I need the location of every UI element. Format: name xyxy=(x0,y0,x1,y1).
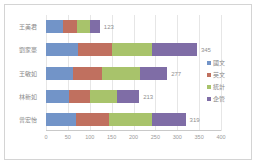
category-label: 林新如 xyxy=(11,93,44,101)
bar-segment-統計[interactable] xyxy=(77,20,90,33)
plot-area: 123345277213319 xyxy=(46,15,221,131)
legend-label: 國文 xyxy=(213,59,225,67)
bar-segment-企管[interactable] xyxy=(140,67,168,80)
legend-swatch-icon xyxy=(207,61,211,65)
bar-segment-英文[interactable] xyxy=(76,113,109,126)
legend-swatch-icon xyxy=(207,85,211,89)
bar-segment-國文[interactable] xyxy=(46,43,78,56)
bar-segment-企管[interactable] xyxy=(152,43,197,56)
x-axis-tick-label: 300 xyxy=(173,133,182,141)
bar-segment-英文[interactable] xyxy=(63,20,77,33)
table-row[interactable] xyxy=(46,20,100,33)
x-axis-tick-label: 100 xyxy=(85,133,94,141)
category-label: 王美君 xyxy=(11,23,44,31)
legend-swatch-icon xyxy=(207,97,211,101)
x-axis-line xyxy=(46,130,221,131)
bar-segment-英文[interactable] xyxy=(69,90,90,103)
legend-label: 統計 xyxy=(213,83,225,91)
chart-plot-wrapper: 王美君劉家豪王敏如林新如曾宏怡 123345277213319 05010015… xyxy=(5,5,251,159)
x-axis-tick-label: 400 xyxy=(216,133,225,141)
table-row[interactable] xyxy=(46,67,167,80)
legend-label: 企管 xyxy=(213,95,225,103)
gridline xyxy=(199,15,200,131)
legend-swatch-icon xyxy=(207,73,211,77)
bar-segment-國文[interactable] xyxy=(46,90,69,103)
category-label: 劉家豪 xyxy=(11,46,44,54)
chart-legend: 國文英文統計企管 xyxy=(207,57,251,105)
category-label: 王敏如 xyxy=(11,70,44,78)
x-axis-tick-label: 50 xyxy=(65,133,71,141)
bar-segment-統計[interactable] xyxy=(102,67,140,80)
x-axis-tick-label: 150 xyxy=(107,133,116,141)
bar-segment-英文[interactable] xyxy=(73,67,102,80)
bar-segment-國文[interactable] xyxy=(46,20,63,33)
x-axis-tick-label: 250 xyxy=(151,133,160,141)
chart-frame: 王美君劉家豪王敏如林新如曾宏怡 123345277213319 05010015… xyxy=(4,4,252,160)
table-row[interactable] xyxy=(46,43,197,56)
legend-item-企管[interactable]: 企管 xyxy=(207,93,251,105)
legend-label: 英文 xyxy=(213,71,225,79)
bar-value-label: 319 xyxy=(190,116,200,124)
bar-segment-企管[interactable] xyxy=(152,113,186,126)
bar-segment-企管[interactable] xyxy=(117,90,139,103)
x-axis-tick-label: 350 xyxy=(195,133,204,141)
legend-item-統計[interactable]: 統計 xyxy=(207,81,251,93)
bar-segment-英文[interactable] xyxy=(78,43,112,56)
x-axis-tick-label: 0 xyxy=(44,133,47,141)
legend-item-國文[interactable]: 國文 xyxy=(207,57,251,69)
bar-value-label: 123 xyxy=(104,23,114,31)
bar-value-label: 345 xyxy=(201,46,211,54)
bar-value-label: 213 xyxy=(143,93,153,101)
bar-segment-統計[interactable] xyxy=(109,113,152,126)
bar-segment-企管[interactable] xyxy=(90,20,100,33)
x-axis-tick-label: 200 xyxy=(129,133,138,141)
bar-segment-統計[interactable] xyxy=(90,90,117,103)
table-row[interactable] xyxy=(46,113,186,126)
table-row[interactable] xyxy=(46,90,139,103)
bar-segment-國文[interactable] xyxy=(46,113,76,126)
bar-value-label: 277 xyxy=(171,70,181,78)
category-label: 曾宏怡 xyxy=(11,116,44,124)
legend-item-英文[interactable]: 英文 xyxy=(207,69,251,81)
bar-segment-統計[interactable] xyxy=(112,43,152,56)
bar-segment-國文[interactable] xyxy=(46,67,73,80)
value-axis-labels: 050100150200250300350400 xyxy=(46,133,221,145)
